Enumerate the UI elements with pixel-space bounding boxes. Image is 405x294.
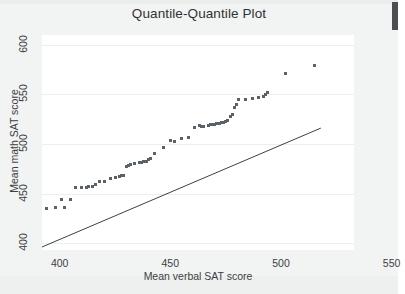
- data-point: [103, 180, 106, 183]
- data-point: [60, 198, 63, 201]
- data-point: [266, 91, 269, 94]
- data-point: [122, 174, 125, 177]
- data-point: [231, 113, 234, 116]
- data-point: [109, 177, 112, 180]
- x-axis-tick-label: 550: [372, 257, 405, 269]
- x-axis-tick-label: 450: [150, 257, 190, 269]
- data-point: [98, 180, 101, 183]
- data-point: [313, 64, 316, 67]
- data-point: [133, 162, 136, 165]
- data-point: [284, 72, 287, 75]
- data-point: [180, 137, 183, 140]
- data-point: [45, 207, 48, 210]
- data-point: [87, 185, 90, 188]
- y-axis-tick-label: 600: [17, 29, 29, 59]
- data-point: [54, 206, 57, 209]
- data-point: [187, 136, 190, 139]
- data-point: [63, 206, 66, 209]
- data-point: [153, 152, 156, 155]
- data-point: [149, 157, 152, 160]
- data-point: [129, 163, 132, 166]
- data-point: [235, 103, 238, 106]
- data-point: [193, 126, 196, 129]
- y-axis-tick-label: 400: [17, 227, 29, 257]
- data-point: [237, 98, 240, 101]
- x-axis-title: Mean verbal SAT score: [42, 270, 354, 282]
- data-point: [94, 183, 97, 186]
- scatter-points-layer: [42, 35, 354, 250]
- data-point: [69, 198, 72, 201]
- plot-area: [42, 35, 354, 250]
- data-point: [74, 186, 77, 189]
- data-point: [169, 139, 172, 142]
- data-point: [202, 125, 205, 128]
- data-point: [162, 146, 165, 149]
- data-point: [257, 96, 260, 99]
- data-point: [251, 97, 254, 100]
- data-point: [114, 176, 117, 179]
- data-point: [173, 140, 176, 143]
- page-title: Quantile-Quantile Plot: [0, 6, 398, 21]
- scan-band-top: [0, 0, 398, 4]
- data-point: [233, 106, 236, 109]
- data-point: [226, 119, 229, 122]
- x-axis-tick-label: 400: [40, 257, 80, 269]
- data-point: [80, 186, 83, 189]
- x-axis-tick-label: 500: [261, 257, 301, 269]
- y-axis-title: Mean math SAT score: [8, 81, 20, 201]
- data-point: [244, 98, 247, 101]
